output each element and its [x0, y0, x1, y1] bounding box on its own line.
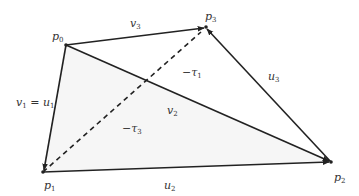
label-p0: p0: [52, 31, 64, 44]
shaded-face-p0-p1-p2: [43, 45, 331, 172]
label-p2-base: p: [334, 171, 341, 184]
vertex-p3: [204, 25, 208, 29]
label-u2: u2: [164, 180, 176, 193]
label-u2-sub: 2: [171, 185, 175, 193]
label-p2: p2: [334, 172, 346, 185]
label-equals: =: [30, 96, 39, 109]
label-neg-tau1: −τ1: [182, 67, 202, 80]
label-v3: v3: [130, 18, 141, 31]
label-tau1-sub: 1: [197, 72, 201, 80]
vertex-p1: [41, 170, 45, 174]
label-u3-sub: 3: [275, 76, 279, 84]
label-p1: p1: [44, 180, 56, 193]
label-p0-sub: 0: [59, 36, 63, 44]
label-u3: u3: [268, 71, 280, 84]
label-v3-sub: 3: [136, 23, 140, 31]
label-u1-base: u: [43, 96, 50, 109]
vertex-p2: [329, 160, 333, 164]
label-tau3-prefix: −τ: [122, 122, 137, 135]
label-v1-sub: 1: [22, 102, 26, 110]
label-p3-sub: 3: [212, 16, 216, 24]
label-p0-base: p: [52, 30, 59, 43]
label-p1-sub: 1: [51, 185, 55, 193]
label-p3-base: p: [205, 10, 212, 23]
label-tau1-prefix: −τ: [182, 66, 197, 79]
label-neg-tau3: −τ3: [122, 123, 142, 136]
label-p1-base: p: [44, 179, 51, 192]
label-u1-sub: 1: [50, 102, 54, 110]
label-v2-sub: 2: [173, 110, 177, 118]
label-tau3-sub: 3: [137, 128, 141, 136]
label-v1-equals-u1: v1 = u1: [16, 97, 54, 110]
label-p2-sub: 2: [341, 177, 345, 185]
vertex-p0: [64, 43, 68, 47]
label-p3: p3: [205, 11, 217, 24]
label-v2: v2: [167, 105, 178, 118]
